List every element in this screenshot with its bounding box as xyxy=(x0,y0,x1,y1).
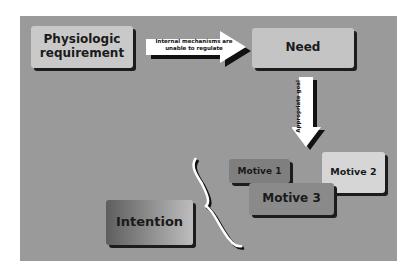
node-need: Need xyxy=(252,28,354,68)
edge-label-internal-mechanisms: Internal mechanisms are unable to regula… xyxy=(146,38,242,52)
node-motive-3: Motive 3 xyxy=(249,183,334,215)
edge-label-appropriate-goal: Appropriate goal xyxy=(295,76,302,136)
curly-brace-icon xyxy=(188,154,248,254)
node-physiologic-requirement: Physiologic requirement xyxy=(31,26,133,68)
node-intention: Intention xyxy=(106,200,193,245)
